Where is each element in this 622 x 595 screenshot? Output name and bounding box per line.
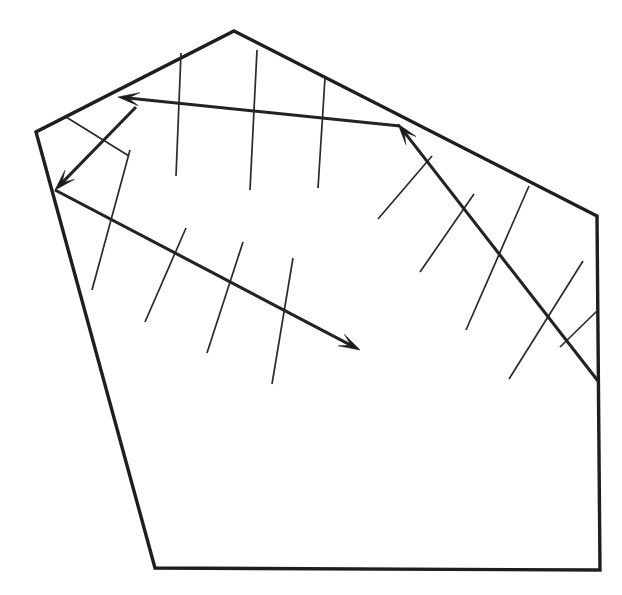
figure-root — [0, 0, 622, 595]
structural-geology-diagram — [0, 0, 622, 595]
figure-background — [0, 0, 622, 595]
